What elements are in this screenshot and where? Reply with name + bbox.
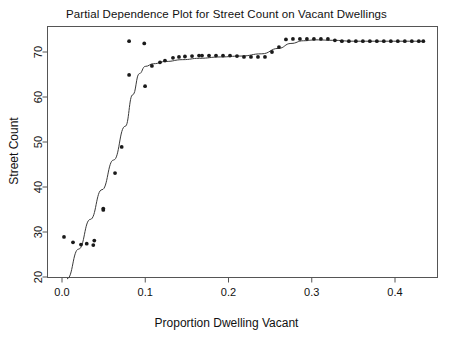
- data-point: [127, 39, 131, 43]
- data-point: [298, 37, 302, 41]
- data-point: [256, 55, 260, 59]
- data-point: [142, 42, 146, 46]
- data-point: [62, 235, 66, 239]
- data-point: [183, 55, 187, 59]
- y-axis-label: Street Count: [7, 91, 21, 211]
- y-axis-ticks: 203040506070: [32, 46, 48, 283]
- data-point: [150, 64, 154, 68]
- data-point: [113, 171, 117, 175]
- fit-curve-path: [67, 40, 423, 279]
- y-tick-label: 50: [32, 136, 44, 148]
- y-tick-label: 40: [32, 181, 44, 193]
- data-point: [249, 55, 253, 59]
- data-point: [143, 84, 147, 88]
- data-point: [91, 243, 95, 247]
- smoothed-fit-line: [67, 40, 423, 279]
- data-point: [347, 39, 351, 43]
- data-point: [354, 39, 358, 43]
- data-point: [375, 39, 379, 43]
- data-point: [228, 54, 232, 58]
- data-point: [171, 56, 175, 60]
- data-point: [326, 37, 330, 41]
- y-tick-label: 30: [32, 226, 44, 238]
- data-point: [277, 45, 281, 49]
- data-point: [403, 39, 407, 43]
- data-point: [200, 54, 204, 58]
- data-point: [214, 54, 218, 58]
- data-point: [382, 39, 386, 43]
- data-point: [92, 239, 96, 243]
- x-tick-label: 0.1: [138, 286, 153, 298]
- data-point: [361, 39, 365, 43]
- partial-dependence-figure: Partial Dependence Plot for Street Count…: [0, 0, 453, 343]
- x-tick-label: 0.2: [221, 286, 236, 298]
- data-point: [71, 240, 75, 244]
- data-point: [120, 145, 124, 149]
- data-point: [291, 37, 295, 41]
- data-point: [417, 39, 421, 43]
- plot-frame: [48, 27, 438, 278]
- data-point-markers: [62, 37, 425, 247]
- y-tick-label: 20: [32, 271, 44, 283]
- data-point: [396, 39, 400, 43]
- data-point: [190, 54, 194, 58]
- y-tick-label: 60: [32, 91, 44, 103]
- data-point: [79, 243, 83, 247]
- data-point: [158, 60, 162, 64]
- data-point: [389, 39, 393, 43]
- data-point: [270, 50, 274, 54]
- data-point: [319, 37, 323, 41]
- data-point: [340, 39, 344, 43]
- data-point: [242, 55, 246, 59]
- data-point: [263, 55, 267, 59]
- data-point: [101, 207, 105, 211]
- data-point: [333, 38, 337, 42]
- data-point: [207, 54, 211, 58]
- data-point: [312, 37, 316, 41]
- data-point: [85, 242, 89, 246]
- x-tick-label: 0.4: [387, 286, 402, 298]
- data-point: [163, 59, 167, 63]
- x-tick-label: 0.0: [54, 286, 69, 298]
- data-point: [305, 37, 309, 41]
- data-point: [235, 54, 239, 58]
- data-point: [177, 55, 181, 59]
- x-tick-label: 0.3: [304, 286, 319, 298]
- data-point: [221, 54, 225, 58]
- data-point: [368, 39, 372, 43]
- data-point: [410, 39, 414, 43]
- y-tick-label: 70: [32, 46, 44, 58]
- data-point: [127, 73, 131, 77]
- data-point: [421, 39, 425, 43]
- x-axis-label: Proportion Dwelling Vacant: [0, 316, 453, 330]
- x-axis-ticks: 0.00.10.20.30.4: [54, 278, 402, 298]
- chart-plot-area: 0.00.10.20.30.4 203040506070: [0, 0, 453, 343]
- data-point: [284, 38, 288, 42]
